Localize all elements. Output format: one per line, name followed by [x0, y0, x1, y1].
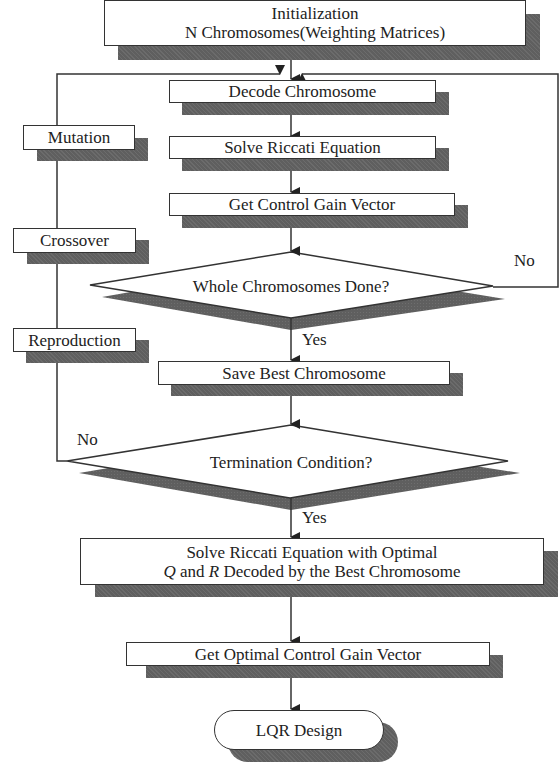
lqr-design-terminal: LQR Design: [214, 710, 384, 750]
get-optimal-gain-box: Get Optimal Control Gain Vector: [126, 642, 490, 666]
init-line2: N Chromosomes(Weighting Matrices): [185, 23, 445, 42]
termination-yes-label: Yes: [302, 508, 327, 528]
mutation-box: Mutation: [23, 125, 135, 150]
termination-label: Termination Condition?: [150, 453, 432, 473]
crossover-box: Crossover: [13, 228, 136, 253]
init-line1: Initialization: [272, 4, 359, 23]
whole-done-no-label: No: [514, 251, 535, 271]
termination-no-label: No: [77, 430, 98, 450]
init-box: Initialization N Chromosomes(Weighting M…: [104, 0, 526, 46]
solve-riccati-box: Solve Riccati Equation: [169, 136, 436, 159]
whole-done-label: Whole Chromosomes Done?: [140, 277, 442, 297]
save-best-chromosome-box: Save Best Chromosome: [158, 361, 450, 385]
whole-done-yes-label: Yes: [302, 330, 327, 350]
solve-riccati-optimal-box: Solve Riccati Equation with Optimal Q an…: [80, 538, 544, 585]
get-control-gain-box: Get Control Gain Vector: [169, 193, 455, 216]
solve-final-line2: Q and R Decoded by the Best Chromosome: [164, 562, 461, 581]
reproduction-box: Reproduction: [13, 328, 136, 352]
decode-chromosome-box: Decode Chromosome: [169, 80, 436, 103]
